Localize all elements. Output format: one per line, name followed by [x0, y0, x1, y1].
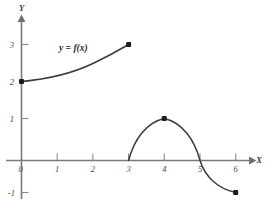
endpoint-dot-6-minus1	[233, 190, 238, 195]
y-tick-label-3: 3	[9, 40, 14, 50]
chart-figure: 0 1 2 3 4 5 6 3 2 1 -1 X Y y = f(x)	[0, 0, 267, 206]
endpoint-dot-0-2	[19, 79, 24, 84]
y-tick-label-minus-1: -1	[8, 188, 15, 198]
x-tick-label-1: 1	[55, 164, 59, 174]
axes-group	[6, 15, 257, 200]
y-tick-label-1: 1	[10, 114, 14, 124]
y-axis-label: Y	[19, 3, 25, 13]
x-axis-label: X	[255, 155, 262, 165]
y-axis-arrow-icon	[18, 15, 26, 23]
x-tick-label-2: 2	[91, 164, 96, 174]
endpoint-dot-3-3	[126, 42, 131, 47]
curve-branch-right	[129, 119, 236, 193]
function-graph: 0 1 2 3 4 5 6 3 2 1 -1 X Y y = f(x)	[0, 0, 267, 206]
x-tick-marks	[57, 154, 236, 161]
function-annotation: y = f(x)	[58, 43, 88, 54]
endpoint-dot-4-1	[162, 116, 167, 121]
y-tick-label-2: 2	[10, 77, 15, 87]
x-tick-label-3: 3	[125, 164, 130, 174]
x-tick-label-4: 4	[162, 164, 167, 174]
x-tick-label-6: 6	[234, 164, 239, 174]
x-tick-label-0: 0	[18, 164, 23, 174]
